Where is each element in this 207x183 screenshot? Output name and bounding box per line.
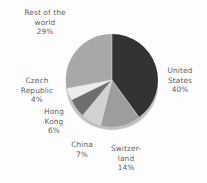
pie-chart-figure: Rest of the world 29% United States 40% … <box>0 0 207 183</box>
pie-label-czech-republic: Czech Republic 4% <box>8 76 66 105</box>
pie-label-switzerland: Switzer- land 14% <box>100 144 152 173</box>
pie-slice-rest-of-the-world <box>66 34 112 89</box>
pie-label-united-states: United States 40% <box>156 66 204 95</box>
pie-label-hong-kong: Hong Kong 6% <box>33 107 75 136</box>
pie-label-china: China 7% <box>62 140 102 159</box>
pie-label-rest-of-the-world: Rest of the world 29% <box>8 8 82 37</box>
